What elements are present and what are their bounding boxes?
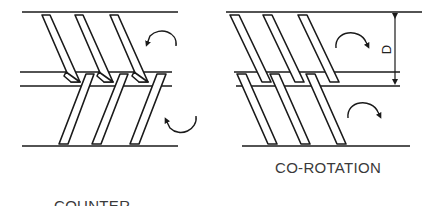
dimension-label-d: D xyxy=(379,44,394,56)
clockwise-arrow-icon xyxy=(166,116,196,132)
flight xyxy=(59,74,94,144)
lower-screw-flights xyxy=(237,74,346,144)
co-rotation-label: CO-ROTATION xyxy=(275,158,381,177)
counter-rotation-panel xyxy=(20,12,196,146)
flight xyxy=(306,74,346,144)
clockwise-arrow-icon xyxy=(348,103,380,118)
flight xyxy=(237,74,277,144)
flight xyxy=(130,74,166,144)
flight xyxy=(92,74,128,144)
lower-screw-flights xyxy=(59,74,166,144)
flight xyxy=(270,74,310,144)
counter-clockwise-arrow-icon xyxy=(147,31,176,46)
counter-rotation-label: COUNTER- ROTATION xyxy=(54,158,136,206)
counter-rotation-label-line1: COUNTER- xyxy=(54,196,136,206)
clockwise-arrow-icon xyxy=(336,33,368,48)
co-rotation-panel xyxy=(226,12,422,146)
